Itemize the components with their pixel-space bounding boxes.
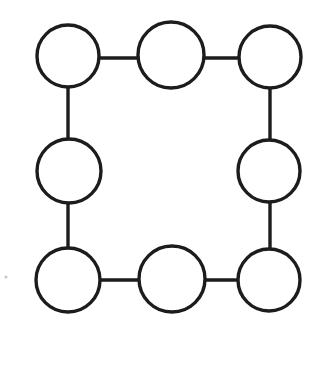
node-group (36, 22, 301, 312)
diagram-canvas (0, 0, 309, 379)
node-top-left[interactable] (37, 25, 99, 87)
node-middle-right[interactable] (238, 140, 300, 202)
artifact-group (4, 275, 7, 278)
node-bottom-middle[interactable] (139, 246, 205, 312)
node-middle-left[interactable] (37, 139, 101, 203)
node-bottom-left[interactable] (36, 248, 100, 312)
node-bottom-right[interactable] (238, 249, 300, 311)
scan-speck (4, 275, 7, 278)
node-top-middle[interactable] (138, 22, 204, 88)
ring-diagram (0, 0, 309, 379)
node-top-right[interactable] (239, 26, 301, 88)
